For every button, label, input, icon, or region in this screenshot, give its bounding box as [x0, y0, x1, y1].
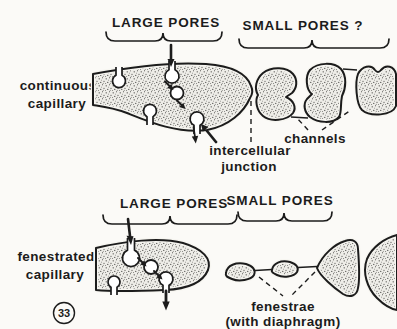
large-pores-label-top: LARGE PORES — [112, 15, 220, 30]
continuous-capillary-cell — [93, 63, 396, 130]
channels-pointer-line-left — [297, 118, 308, 130]
fenestrae-label-line1: fenestrae — [251, 299, 315, 314]
fenestra-diaphragm-line-2 — [298, 267, 317, 268]
intercellular-junction-label-line1: intercellular — [209, 143, 291, 158]
side-label-continuous-line1: continuous — [20, 78, 97, 93]
channel-membrane-line-2 — [343, 69, 357, 70]
capillary-pore-diagram: LARGE PORES SMALL PORES ? continuous cap… — [0, 0, 397, 329]
figure-number: 33 — [58, 307, 70, 319]
small-pores-label-top: SMALL PORES ? — [243, 18, 364, 33]
fenestrated-capillary-cell — [96, 235, 397, 310]
channels-label: channels — [284, 131, 346, 146]
fenestrae-pointer-line-left — [259, 277, 283, 296]
large-pores-label-bottom: LARGE PORES — [120, 196, 228, 211]
small-pores-brace-top — [239, 39, 389, 48]
small-pores-brace-bottom — [238, 212, 332, 221]
side-label-continuous-line2: capillary — [28, 96, 86, 111]
return-arrow-up — [207, 131, 216, 142]
entry-arrow — [128, 219, 130, 236]
exit-arrowhead — [162, 302, 169, 311]
exit-arrowhead-down — [192, 136, 198, 144]
capillary-pores-figure: LARGE PORES SMALL PORES ? continuous cap… — [0, 0, 397, 329]
side-label-fenestrated-line2: capillary — [26, 267, 84, 282]
bottom-row: LARGE PORES SMALL PORES fenestrated capi… — [17, 193, 397, 329]
top-row: LARGE PORES SMALL PORES ? continuous cap… — [20, 15, 396, 174]
intercellular-junction-label-line2: junction — [220, 159, 277, 174]
large-pores-brace-top — [106, 32, 222, 41]
figure-number-badge: 33 — [54, 303, 75, 324]
fenestrae-label-line2: (with diaphragm) — [225, 314, 340, 329]
small-pores-label-bottom: SMALL PORES — [226, 193, 333, 208]
side-label-fenestrated-line1: fenestrated — [17, 249, 94, 264]
large-pores-brace-bottom — [103, 215, 237, 224]
channel-membrane-line-1 — [291, 117, 308, 118]
fenestra-diaphragm-line-1 — [255, 270, 272, 271]
